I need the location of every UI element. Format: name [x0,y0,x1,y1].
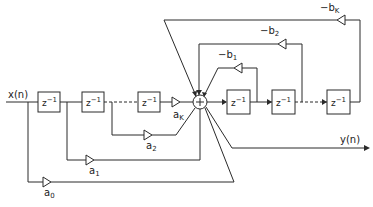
svg-text:−b1: −b1 [218,49,237,62]
svg-text:a1: a1 [89,165,100,178]
svg-text:−bK: −bK [320,2,340,15]
svg-text:−b2: −b2 [260,25,279,38]
gain-aK: aK [172,97,184,122]
feedforward-delay-k: z−1 [138,92,160,112]
svg-text:aK: aK [173,109,184,122]
feedforward-delay-1: z−1 [38,92,60,112]
gain-a0-branch: a0 [28,102,234,200]
feedback-delay-1: z−1 [227,90,250,114]
feedforward-delay-2: z−1 [82,92,104,112]
svg-text:a2: a2 [146,140,157,153]
iir-filter-diagram: x(n) z−1 z−1 z−1 aK a2 a1 a0 [0,0,373,207]
input-label: x(n) [8,89,28,100]
feedback-delay-k: z−1 [327,90,350,114]
svg-text:a0: a0 [44,187,55,200]
output-label: y(n) [340,134,360,145]
gain-bK-branch: −bK [164,2,360,102]
summer-node [193,95,207,109]
input-signal: x(n) [6,89,38,102]
feedback-delay-2: z−1 [272,90,295,114]
